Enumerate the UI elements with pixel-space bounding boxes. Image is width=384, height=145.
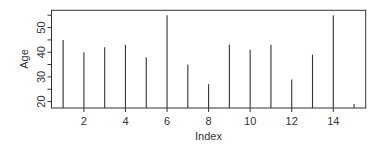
x-axis: 2468101214 — [81, 108, 340, 127]
x-tick-label: 2 — [81, 115, 87, 127]
y-axis: 20304050 — [35, 15, 52, 107]
x-tick-label: 10 — [244, 115, 256, 127]
y-tick-label: 50 — [35, 21, 47, 33]
data-lines — [63, 15, 354, 108]
x-tick-label: 14 — [327, 115, 339, 127]
y-tick-label: 40 — [35, 46, 47, 58]
chart: 20304050 2468101214 Index Age — [0, 0, 384, 145]
x-tick-label: 6 — [164, 115, 170, 127]
x-tick-label: 4 — [122, 115, 128, 127]
x-axis-label: Index — [195, 130, 222, 142]
x-tick-label: 12 — [286, 115, 298, 127]
y-tick-label: 30 — [35, 71, 47, 83]
y-axis-label: Age — [18, 49, 30, 69]
y-tick-label: 20 — [35, 95, 47, 107]
x-tick-label: 8 — [206, 115, 212, 127]
